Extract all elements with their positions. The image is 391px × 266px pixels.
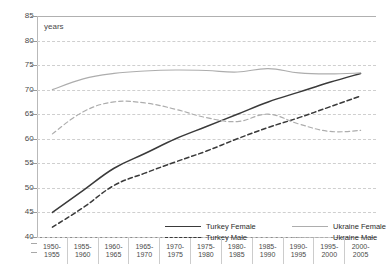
x-axis-category-band: 1950-19551955-19601960-19651965-19701970… (37, 238, 376, 264)
x-tick-label-9: 1995-2000 (314, 238, 345, 264)
plot-area: Turkey Female Ukraine Female Turkey Male… (37, 16, 376, 237)
x-tick-label-5: 1975-1980 (191, 238, 222, 264)
line-swatch-icon-turkey-female (165, 226, 201, 227)
x-tick-label-1: 1955-1960 (68, 238, 99, 264)
series-line-turkey-male (52, 96, 360, 227)
x-tick-label-0: 1950-1955 (37, 238, 68, 264)
series-line-turkey-female (52, 73, 360, 212)
series-line-ukraine-male (52, 101, 360, 134)
series-layer (37, 16, 376, 237)
x-tick-label-3: 1965-1970 (129, 238, 160, 264)
legend-item-ukraine-female[interactable]: Ukraine Female (292, 222, 391, 231)
legend-label-ukraine-female: Ukraine Female (333, 222, 386, 231)
x-tick-label-7: 1985-1990 (253, 238, 284, 264)
x-tick-label-4: 1970-1975 (160, 238, 191, 264)
line-swatch-icon-ukraine-female (292, 226, 328, 227)
legend-item-turkey-female[interactable]: Turkey Female (165, 222, 286, 231)
legend-label-turkey-female: Turkey Female (206, 222, 256, 231)
x-tick-label-8: 1990-1995 (284, 238, 315, 264)
x-tick-label-6: 1980-1985 (222, 238, 253, 264)
x-tick-label-2: 1960-1965 (99, 238, 130, 264)
x-tick-label-10: 2000-2005 (345, 238, 376, 264)
